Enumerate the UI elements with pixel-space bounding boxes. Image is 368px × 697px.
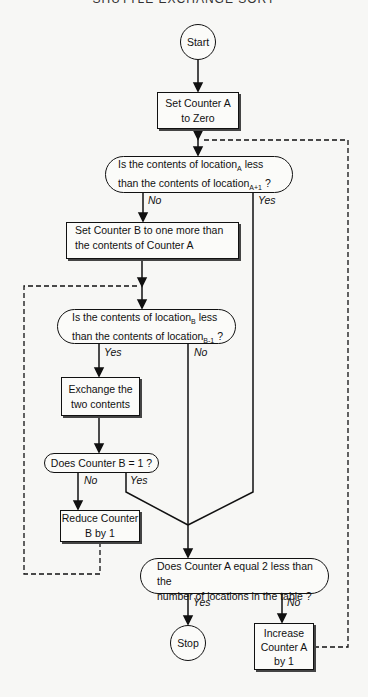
decision-line: Is the contents of locationB less bbox=[72, 310, 217, 329]
start-label: Start bbox=[187, 35, 209, 50]
process-set-counter-a-zero: Set Counter A to Zero bbox=[157, 92, 239, 129]
arrow-head bbox=[194, 131, 202, 139]
label-d1-yes: Yes bbox=[258, 194, 276, 206]
arrow-head bbox=[278, 614, 286, 622]
label-d4-no: No bbox=[287, 596, 300, 608]
decision-location-b-less: Is the contents of locationB less than t… bbox=[57, 309, 236, 344]
decision-line: than the contents of locationA+1 ? bbox=[118, 176, 271, 195]
process-text: by 1 bbox=[274, 654, 294, 668]
label-d3-yes: Yes bbox=[130, 474, 148, 486]
arrow-head bbox=[74, 501, 82, 509]
decision-counter-a-end: Does Counter A equal 2 less than the num… bbox=[140, 558, 329, 594]
label-d2-yes: Yes bbox=[104, 346, 122, 358]
start-terminal: Start bbox=[180, 24, 216, 60]
arrow-head bbox=[184, 549, 192, 557]
process-exchange-contents: Exchange the two contents bbox=[61, 377, 140, 416]
process-reduce-counter-b: Reduce Counter B by 1 bbox=[60, 510, 140, 542]
stop-terminal: Stop bbox=[170, 625, 206, 661]
arrow-head bbox=[138, 278, 146, 286]
decision-line: Is the contents of locationA less bbox=[118, 157, 263, 176]
label-d3-no: No bbox=[84, 474, 97, 486]
process-text: B by 1 bbox=[85, 526, 115, 541]
process-text: Set Counter B to one more than bbox=[75, 223, 223, 238]
process-text: Increase bbox=[264, 626, 304, 640]
process-text: Exchange the bbox=[68, 382, 132, 397]
label-d2-no: No bbox=[194, 346, 207, 358]
process-text: Counter A bbox=[261, 640, 308, 654]
process-increase-counter-a: Increase Counter A by 1 bbox=[254, 623, 314, 670]
process-text: Set Counter A bbox=[165, 96, 230, 111]
arrow-head bbox=[184, 616, 192, 624]
arrow-head bbox=[194, 147, 202, 155]
arrow-head bbox=[95, 368, 103, 376]
arrow-head bbox=[139, 213, 147, 221]
decision-counter-b-equals-1: Does Counter B = 1 ? bbox=[44, 453, 159, 473]
arrow-head bbox=[138, 300, 146, 308]
decision-text: Does Counter A equal 2 less than the bbox=[157, 559, 328, 589]
process-text: the contents of Counter A bbox=[75, 238, 194, 253]
label-d1-no: No bbox=[148, 194, 161, 206]
decision-text: Does Counter B = 1 ? bbox=[51, 456, 152, 471]
decision-location-a-less: Is the contents of locationA less than t… bbox=[105, 156, 293, 193]
process-text: two contents bbox=[71, 397, 130, 412]
process-set-counter-b: Set Counter B to one more than the conte… bbox=[66, 222, 239, 259]
label-d4-yes: Yes bbox=[193, 596, 211, 608]
arrow-head bbox=[194, 83, 202, 91]
process-text: Reduce Counter bbox=[62, 511, 138, 526]
stop-label: Stop bbox=[177, 636, 199, 651]
arrow-head bbox=[95, 444, 103, 452]
process-text: to Zero bbox=[181, 111, 214, 126]
